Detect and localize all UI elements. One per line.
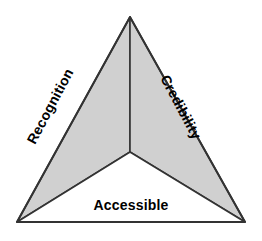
- wedge-label-accessible: Accessible: [93, 198, 168, 212]
- triangle-diagram: Recognition Credibility Accessible: [0, 0, 262, 241]
